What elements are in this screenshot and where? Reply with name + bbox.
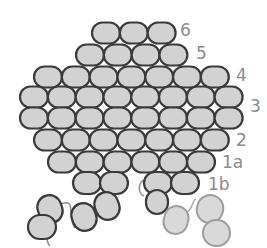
row-label: 3 (250, 98, 261, 115)
bead (117, 67, 145, 88)
bead (159, 108, 187, 129)
bead (215, 87, 243, 108)
bead (62, 130, 90, 151)
bead (104, 152, 132, 173)
bead (173, 130, 201, 151)
bead (76, 108, 104, 129)
row-label: 1b (208, 176, 230, 193)
bead (146, 190, 168, 214)
row-label: 6 (180, 22, 191, 39)
thread (186, 199, 196, 212)
row-label: 5 (196, 45, 207, 62)
bead (187, 87, 215, 108)
bead (159, 45, 187, 66)
loose-beads (28, 172, 230, 246)
bead (120, 23, 148, 44)
bead (145, 67, 173, 88)
bead (145, 130, 173, 151)
bead (131, 108, 159, 129)
bead (48, 108, 76, 129)
bead (159, 87, 187, 108)
bead (28, 215, 56, 239)
bead (48, 87, 76, 108)
bead (103, 87, 131, 108)
bead (20, 87, 48, 108)
bead (131, 152, 159, 173)
row-label: 1a (222, 154, 243, 171)
bead (173, 67, 201, 88)
faded-bead (203, 220, 230, 246)
bead-diagram (0, 0, 267, 248)
bead (76, 87, 104, 108)
bead (90, 67, 118, 88)
bead (117, 130, 145, 151)
bead (187, 152, 215, 173)
bead (34, 130, 62, 151)
bead (103, 108, 131, 129)
row-label: 2 (236, 132, 247, 149)
bead (132, 45, 160, 66)
bead (62, 67, 90, 88)
bead (76, 152, 104, 173)
bead (148, 23, 176, 44)
bead (201, 130, 229, 151)
bead (215, 108, 243, 129)
bead (20, 108, 48, 129)
bead (104, 45, 132, 66)
bead (73, 172, 101, 194)
bead-rows (20, 23, 243, 173)
bead (171, 172, 199, 194)
bead (131, 87, 159, 108)
bead (34, 67, 62, 88)
bead (187, 108, 215, 129)
bead (92, 23, 120, 44)
bead (201, 67, 229, 88)
bead (100, 172, 128, 194)
row-label: 4 (236, 67, 247, 84)
bead (90, 130, 118, 151)
bead (76, 45, 104, 66)
bead (48, 152, 76, 173)
bead (159, 152, 187, 173)
